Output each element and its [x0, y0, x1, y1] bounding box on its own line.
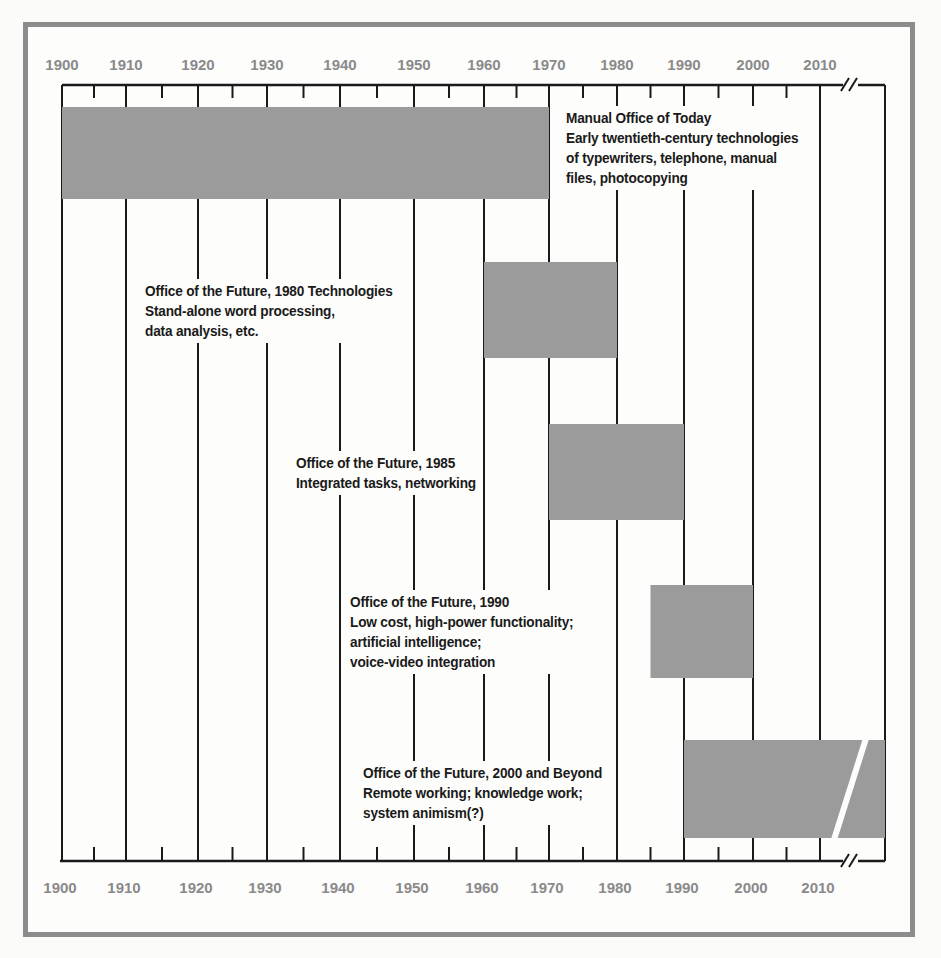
year-label-top: 2000: [736, 56, 769, 73]
era-bar: [684, 740, 885, 838]
year-label-bottom: 2000: [734, 879, 767, 896]
era-description-line: artificial intelligence;: [350, 632, 573, 652]
era-description-line: Early twentieth-century technologies: [566, 128, 798, 148]
year-label-bottom: 1920: [179, 879, 212, 896]
era-title: Office of the Future, 2000 and Beyond: [363, 763, 602, 783]
era-label-1980: Office of the Future, 1980 Technologies …: [145, 281, 393, 341]
year-label-top: 1960: [467, 56, 500, 73]
era-bar: [651, 585, 754, 678]
year-label-bottom: 1980: [598, 879, 631, 896]
era-description-line: Stand-alone word processing,: [145, 301, 393, 321]
era-description-line: Low cost, high-power functionality;: [350, 612, 573, 632]
year-label-bottom: 1930: [248, 879, 281, 896]
year-label-bottom: 1970: [530, 879, 563, 896]
year-label-top: 1930: [250, 56, 283, 73]
year-label-top: 1970: [532, 56, 565, 73]
era-bar: [484, 262, 617, 358]
year-label-bottom: 1950: [395, 879, 428, 896]
era-title: Manual Office of Today: [566, 108, 798, 128]
year-label-top: 1900: [45, 56, 78, 73]
year-label-bottom: 1910: [107, 879, 140, 896]
year-label-top: 1980: [600, 56, 633, 73]
year-label-top: 2010: [803, 56, 836, 73]
era-title: Office of the Future, 1985: [296, 453, 476, 473]
year-label-bottom: 1940: [321, 879, 354, 896]
era-title: Office of the Future, 1980 Technologies: [145, 281, 393, 301]
era-title: Office of the Future, 1990: [350, 592, 573, 612]
axis-break-mark: [849, 78, 857, 91]
era-label-1985: Office of the Future, 1985 Integrated ta…: [296, 453, 476, 493]
year-label-bottom: 1990: [665, 879, 698, 896]
era-label-2000-beyond: Office of the Future, 2000 and Beyond Re…: [363, 763, 602, 823]
era-description-line: of typewriters, telephone, manual: [566, 148, 798, 168]
year-label-top: 1950: [397, 56, 430, 73]
era-description-line: files, photocopying: [566, 168, 798, 188]
era-description-line: voice-video integration: [350, 652, 573, 672]
year-label-bottom: 2010: [801, 879, 834, 896]
era-description-line: data analysis, etc.: [145, 321, 393, 341]
era-label-manual-office: Manual Office of Today Early twentieth-c…: [566, 108, 798, 188]
era-description-line: Integrated tasks, networking: [296, 473, 476, 493]
era-bar: [549, 424, 684, 520]
era-bar: [62, 107, 549, 199]
year-label-top: 1990: [667, 56, 700, 73]
year-label-bottom: 1900: [43, 879, 76, 896]
axis-break-mark: [849, 854, 857, 867]
era-description-line: Remote working; knowledge work;: [363, 783, 602, 803]
year-label-top: 1920: [181, 56, 214, 73]
year-label-top: 1940: [323, 56, 356, 73]
era-description-line: system animism(?): [363, 803, 602, 823]
year-label-bottom: 1960: [465, 879, 498, 896]
year-label-top: 1910: [109, 56, 142, 73]
era-label-1990: Office of the Future, 1990 Low cost, hig…: [350, 592, 573, 672]
